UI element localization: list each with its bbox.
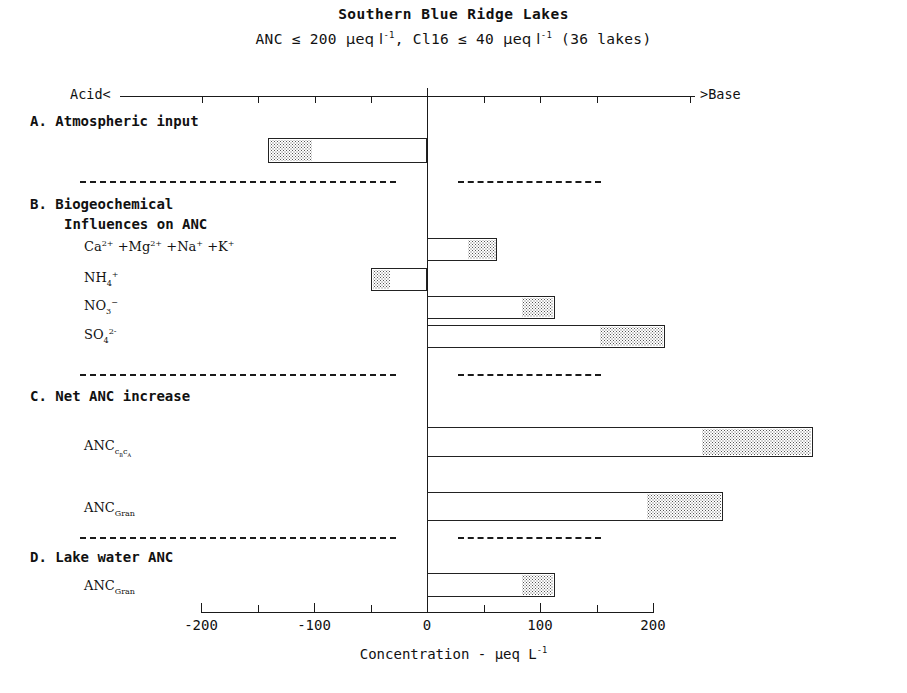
ion-nh4-charge: + [112,270,119,279]
chart-title: Southern Blue Ridge Lakes [0,6,907,22]
bottom-tick-label--100: -100 [279,617,349,633]
bar-fill-anc-gran-d [522,575,553,595]
ion-so4-charge: 2- [109,327,117,336]
bottom-tick--150 [258,605,259,613]
section-c-heading: C. Net ANC increase [30,388,190,404]
figure-canvas: Southern Blue Ridge Lakes ANC ≤ 200 μeq … [0,0,907,693]
top-tick-200 [690,96,691,103]
anc-text-2: ANC [84,500,115,515]
subtitle-part-c: (36 lakes) [552,31,651,47]
anc-sub-gran-1: Gran [115,509,135,518]
ion-mg: +Mg [114,239,151,254]
ion-so4: SO [84,327,104,342]
ion-k-charge: + [228,239,235,248]
bottom-tick-label-200: 200 [618,617,688,633]
bar-error-sulfate [663,328,723,345]
ion-nh4: NH [84,270,107,285]
subtitle-unit-1: μeq l [346,31,384,47]
ion-mg-charge: 2+ [150,239,162,248]
bar-error-nitrate [553,299,583,316]
top-tick--125 [258,96,259,103]
section-divider-a-left [80,181,396,183]
bottom-tick--100 [314,603,315,613]
ion-ca: Ca [84,239,102,254]
bar-fill-atmospheric-input [270,140,312,161]
section-d-heading: D. Lake water ANC [30,549,173,565]
section-a-heading: A. Atmospheric input [30,113,199,129]
subtitle-part-b: , Cl16 ≤ 40 [395,31,503,47]
ion-na: +Na [162,239,196,254]
bar-error-anc-cbca [811,431,890,454]
row-label-sulfate: SO42- [84,327,117,345]
subtitle-part-a: ANC ≤ 200 [256,31,346,47]
bottom-tick-150 [597,605,598,613]
base-axis-label: >Base [700,86,741,102]
bar-fill-nitrate [522,298,553,317]
subtitle-sup-2: -1 [541,30,552,40]
bar-fill-anc-gran-c [647,494,721,519]
anc-sub-a: A [127,451,131,457]
x-axis-title-unit: μeq L [495,646,537,662]
x-axis-title: Concentration - μeq L-1 [0,645,907,662]
anc-text-1: ANC [84,438,115,453]
subtitle-sup-1: -1 [383,30,394,40]
row-label-ammonium: NH4+ [84,270,119,288]
section-divider-b-left [80,374,396,376]
top-tick-50 [484,96,485,103]
ion-no3-count: 3 [106,307,111,316]
zero-axis-line [427,88,428,608]
acid-axis-label: Acid< [70,86,111,102]
top-axis-rule [120,96,695,97]
ion-so4-count: 4 [104,336,109,345]
subtitle-unit-2: μeq l [503,31,541,47]
bar-fill-sulfate [600,327,663,346]
top-tick--50 [371,96,372,103]
bottom-tick-50 [484,605,485,613]
section-divider-b-right [458,374,601,376]
top-tick--100 [315,96,316,103]
bottom-tick-label-0: 0 [392,617,462,633]
ion-no3: NO [84,298,106,313]
row-label-base-cations: Ca2+ +Mg2+ +Na+ +K+ [84,239,235,254]
ion-nh4-count: 4 [107,279,112,288]
row-label-anc-cbca: ANCcBcA [84,438,131,457]
section-divider-c-right [458,537,601,539]
bottom-tick-label--200: -200 [166,617,236,633]
top-tick-150 [597,96,598,103]
row-label-anc-gran-c: ANCGran [84,500,135,518]
bar-fill-ammonium [373,270,390,289]
top-tick--150 [202,96,203,103]
bar-fill-base-cations [468,240,496,259]
bottom-tick-label-100: 100 [505,617,575,633]
ion-k: +K [203,239,228,254]
anc-text-3: ANC [84,578,115,593]
ion-ca-charge: 2+ [102,239,114,248]
bar-fill-anc-cbca [702,429,811,455]
row-label-nitrate: NO3− [84,298,118,316]
bottom-tick--200 [201,603,202,613]
top-tick-100 [540,96,541,103]
x-axis-title-sup: -1 [537,645,547,655]
section-divider-c-left [80,537,396,539]
bar-error-base-cations [495,241,515,258]
chart-subtitle: ANC ≤ 200 μeq l-1, Cl16 ≤ 40 μeq l-1 (36… [0,30,907,47]
section-divider-a-right [458,181,601,183]
bar-error-atmospheric-input [231,141,269,161]
anc-sub-cb: cBcA [115,447,131,456]
section-b-heading-line1: B. Biogeochemical [30,196,173,212]
bottom-tick-0 [427,603,428,613]
bottom-tick-200 [653,603,654,613]
bottom-tick--50 [371,605,372,613]
bar-error-anc-gran-d [553,576,594,594]
bottom-tick-100 [540,603,541,613]
anc-sub-gran-2: Gran [115,587,135,596]
bar-error-anc-gran-c [721,496,787,518]
x-axis-title-text: Concentration - [360,646,495,662]
section-b-heading-line2: Influences on ANC [64,216,207,232]
ion-no3-charge: − [111,298,118,307]
row-label-anc-gran-d: ANCGran [84,578,135,596]
